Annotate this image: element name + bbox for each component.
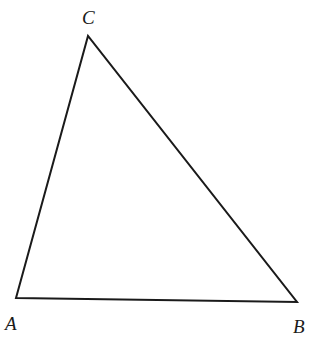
vertex-label-c: C — [82, 7, 95, 28]
triangle-diagram: C A B — [0, 0, 311, 342]
vertex-label-b: B — [293, 316, 305, 337]
triangle-abc — [16, 36, 297, 302]
vertex-label-a: A — [3, 313, 17, 334]
